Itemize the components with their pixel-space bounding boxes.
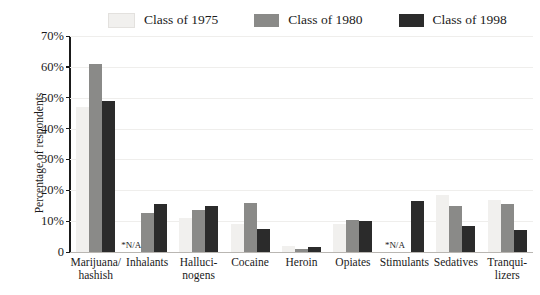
bar [231,224,244,252]
bar [411,201,424,252]
legend-label-1975: Class of 1975 [144,13,218,27]
bar-group [327,36,378,252]
legend-item-class-of-1980: Class of 1980 [254,13,362,27]
x-axis-line [69,252,533,253]
bar-group [224,36,275,252]
bar [449,206,462,252]
legend-swatch-icon-1975 [108,13,135,28]
bar [308,247,321,252]
legend-item-class-of-1975: Class of 1975 [108,13,218,28]
bar-group [430,36,481,252]
bar-group: *N/A [121,36,172,252]
bars [379,36,430,252]
legend-item-class-of-1998: Class of 1998 [399,13,507,27]
na-annotation: *N/A [385,240,405,250]
y-tick-label: 50% [41,92,64,104]
bar [154,204,167,252]
plot-area: 010%20%30%40%50%60%70% *N/A*N/A [70,36,533,252]
y-tick-label: 30% [41,153,64,165]
x-axis-label-line: nogens [167,269,230,282]
bar-chart: Class of 1975 Class of 1980 Class of 199… [0,0,540,295]
bar [295,249,308,252]
bar [179,218,192,252]
legend-swatch-icon-1980 [254,14,279,27]
y-tick-label: 10% [41,215,64,227]
bar-group [173,36,224,252]
bar [192,210,205,252]
bar [205,206,218,252]
bar [282,246,295,252]
bars [173,36,224,252]
bars [482,36,533,252]
bar [244,203,257,252]
bar [102,101,115,252]
bar [462,226,475,252]
bar [257,229,270,252]
y-tick-label: 70% [41,30,64,42]
x-axis-label-line: Tranqui- [476,256,539,269]
x-axis-label-line: lizers [476,269,539,282]
legend-label-1980: Class of 1980 [288,13,362,27]
x-axis-label: Tranqui-lizers [476,256,539,281]
bar [488,200,501,252]
y-tick-label: 60% [41,61,64,73]
x-axis-labels: Marijuana/hashishInhalantsHalluci-nogens… [70,256,533,294]
legend-swatch-icon-1998 [399,14,424,27]
bars [430,36,481,252]
bars [224,36,275,252]
bars [121,36,172,252]
x-axis-label-line: hashish [64,269,127,282]
bar [346,220,359,252]
bar [359,221,372,252]
bar-group: *N/A [379,36,430,252]
bar-group [482,36,533,252]
bars [276,36,327,252]
bar [333,224,346,252]
bar-group [70,36,121,252]
bar-group [276,36,327,252]
bar [436,195,449,252]
bar [514,230,527,252]
bar [501,204,514,252]
y-tick-label: 40% [41,123,64,135]
legend-label-1998: Class of 1998 [433,13,507,27]
y-tick-label: 20% [41,184,64,196]
bar [141,213,154,252]
chart-legend: Class of 1975 Class of 1980 Class of 199… [108,11,528,29]
bar [89,64,102,252]
bars [70,36,121,252]
bars [327,36,378,252]
na-annotation: *N/A [121,240,141,250]
bar [76,107,89,252]
